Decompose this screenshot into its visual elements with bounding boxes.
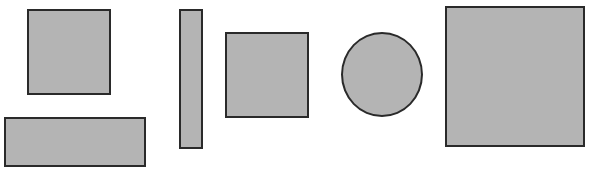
rect-wide-shape [4,117,146,167]
square-small-left-shape [27,9,111,95]
rect-tall-shape [179,9,203,149]
square-middle-shape [225,32,309,118]
square-large-shape [445,6,585,147]
circle-shape [341,32,423,117]
